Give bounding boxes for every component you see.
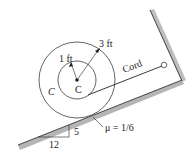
- slope-rise-label: 5: [74, 126, 79, 137]
- inner-radius-label: 1 ft: [59, 53, 73, 64]
- slope-run-label: 12: [49, 139, 59, 150]
- wall-line: [150, 10, 182, 81]
- cord-anchor-icon: [161, 62, 167, 68]
- outer-radius-label: 3 ft: [99, 38, 113, 49]
- wall-surface: [150, 9, 186, 82]
- cord-label: Cord: [121, 57, 144, 74]
- spool-on-incline-diagram: 5 12 1 ft 3 ft C C Cord μ = 1/6: [0, 0, 194, 157]
- incline-line: [18, 80, 182, 145]
- friction-label: μ = 1/6: [105, 122, 134, 133]
- center-label: C: [75, 84, 82, 95]
- incline-surface: [18, 80, 184, 150]
- body-label: C: [48, 86, 55, 97]
